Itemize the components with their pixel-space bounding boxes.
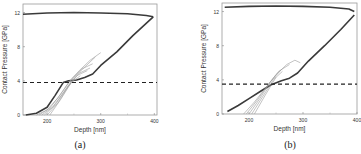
figure: 04812200300400Depth [nm]Contact Pressure… [0,0,361,154]
x-tick-label: 300 [97,118,106,124]
x-tick-label: 400 [353,117,361,123]
y-tick-label: 12 [213,9,219,15]
x-axis-label: Depth [nm] [74,126,106,134]
y-axis-label: Contact Pressure [GPa] [1,25,9,94]
y-tick-label: 0 [216,111,219,117]
series-line-trace [254,77,276,114]
series-line-trace [47,68,90,115]
axes-frame [23,4,157,115]
series-line-main [26,17,154,115]
series-line-main [23,13,153,17]
series-line-trace [249,70,281,114]
series-line-trace [36,53,100,115]
chart-panel-a: 04812200300400Depth [nm]Contact Pressure… [1,4,159,151]
panel-caption: (a) [74,139,85,151]
panel-caption: (b) [284,139,296,151]
chart-panel-b: 04812200300400Depth [nm]Contact Pressure… [200,3,361,151]
series-line-main [227,15,354,111]
y-tick-label: 12 [14,10,20,16]
x-tick-label: 200 [245,117,254,123]
series-line-trace [244,60,301,114]
axes-frame [222,3,357,114]
series-line-main [225,6,355,12]
y-tick-label: 8 [17,44,20,50]
y-tick-label: 4 [216,77,219,83]
y-tick-label: 8 [216,43,219,49]
x-tick-label: 200 [43,118,52,124]
y-tick-label: 4 [17,78,20,84]
x-tick-label: 300 [299,117,308,123]
x-tick-label: 400 [150,118,159,124]
y-tick-label: 0 [17,112,20,118]
series-line-trace [246,64,289,114]
y-axis-label: Contact Pressure [GPa] [200,24,208,93]
x-axis-label: Depth [nm] [274,125,306,133]
